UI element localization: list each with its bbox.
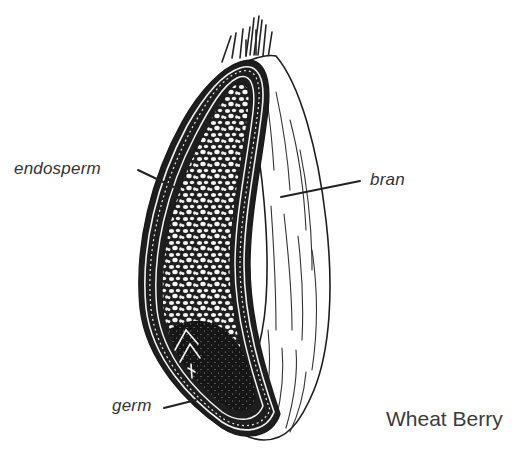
- figure-caption: Wheat Berry: [386, 408, 503, 429]
- brush-bristles: [222, 16, 272, 62]
- wheat-berry-figure: endosperm bran germ Wheat Berry: [0, 0, 527, 452]
- germ-leader: [164, 400, 196, 408]
- endosperm-label: endosperm: [14, 160, 101, 177]
- bran-label: bran: [370, 171, 405, 188]
- wheat-kernel-illustration: [0, 0, 527, 452]
- germ-label: germ: [112, 397, 152, 414]
